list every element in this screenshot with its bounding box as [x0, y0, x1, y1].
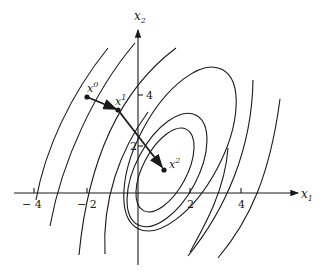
contour-arc-left-1 [36, 48, 108, 200]
contour-arc-left-4 [105, 112, 148, 254]
x-tick-label-2: 2 [187, 198, 194, 211]
label-x0: x0 [87, 80, 98, 95]
contour-lines [36, 43, 280, 258]
point-x1 [115, 107, 120, 112]
x-tick-label-minus4: − 4 [22, 198, 42, 211]
y-axis-label: x2 [134, 9, 146, 25]
contour-ellipse-outer [101, 50, 260, 248]
x-tick-label-minus2: − 2 [77, 198, 97, 211]
y-tick-label-4: 4 [146, 89, 153, 102]
point-x0 [84, 94, 89, 99]
contour-arc-right-1 [188, 80, 253, 256]
step-x0-to-x1 [87, 97, 116, 109]
y-tick-label-2: 2 [130, 140, 137, 153]
contour-diagram: x1 x2 − 4 − 2 2 4 2 4 x0 x1 x2 [0, 0, 325, 274]
point-x2 [161, 167, 166, 172]
label-x2: x2 [169, 156, 180, 171]
x-axis-label: x1 [301, 187, 313, 203]
iterate-path [87, 97, 162, 167]
label-x1: x1 [115, 93, 126, 108]
x-tick-label-4: 4 [238, 198, 245, 211]
step-x1-to-x2 [118, 110, 162, 167]
